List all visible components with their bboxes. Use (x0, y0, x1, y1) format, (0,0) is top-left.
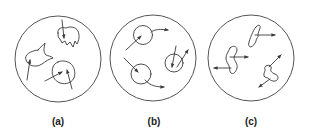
panel-a-round-blob (52, 61, 75, 84)
panel-c-squiggle-1 (249, 25, 261, 47)
panel-c-arrow-4 (269, 55, 281, 67)
panel-b-label: (b) (148, 116, 161, 127)
panel-a-boundary-circle (15, 16, 101, 102)
panel-b-small-circle-1 (134, 26, 153, 45)
panel-a: (a) (15, 16, 101, 127)
panel-a-label: (a) (52, 116, 64, 127)
panel-c-boundary-circle (208, 15, 294, 101)
panel-b-arrow-5 (172, 46, 176, 67)
panel-c-squiggle-2 (226, 46, 237, 73)
panel-b-small-circle-2 (131, 64, 151, 84)
panel-c-label: (c) (245, 116, 257, 127)
panel-b: (b) (110, 15, 196, 127)
panel-a-arrow-1 (62, 20, 64, 38)
panel-a-arrow-4 (67, 70, 72, 89)
panel-b-arrow-2 (151, 29, 168, 32)
panel-a-jagged-shape (58, 27, 79, 47)
panel-c: (c) (208, 15, 294, 127)
diagram-figure: (a) (b) (c) (0, 0, 311, 137)
panel-a-arrow-3 (45, 72, 62, 81)
panel-c-squiggle-3 (264, 65, 278, 81)
panel-c-arrow-5 (259, 79, 270, 87)
